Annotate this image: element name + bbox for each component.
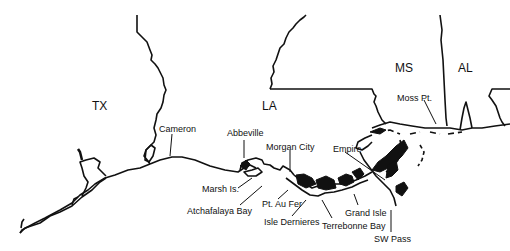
tx-la-border	[137, 15, 166, 164]
place-label-grand-isle: Grand Isle	[345, 208, 387, 218]
state-label-al: AL	[458, 61, 473, 75]
ms-al-border	[440, 15, 447, 126]
mississippi-river-border	[270, 15, 306, 89]
place-label-abbeville: Abbeville	[227, 128, 264, 138]
state-label-ms: MS	[395, 61, 413, 75]
place-label-moss-pt: Moss Pt.	[397, 93, 432, 103]
place-label-cameron: Cameron	[159, 124, 196, 134]
gulf-coast-map	[0, 0, 510, 251]
place-label-isle-dernieres: Isle Dernieres	[264, 217, 320, 227]
place-label-pt-au-fer: Pt. Au Fer	[262, 199, 302, 209]
la-ms-border	[270, 89, 386, 124]
state-label-la: LA	[262, 99, 277, 113]
place-label-terrebonne-bay: Terrebonne Bay	[322, 221, 386, 231]
place-label-empire: Empire	[333, 144, 362, 154]
place-label-marsh-is: Marsh Is.	[202, 184, 239, 194]
state-label-tx: TX	[92, 99, 107, 113]
place-label-sw-pass: SW Pass	[374, 234, 411, 244]
place-label-morgan-city: Morgan City	[266, 142, 315, 152]
al-fl-border	[489, 89, 510, 126]
ms-al-coastline	[372, 122, 510, 130]
place-label-atchafalaya-bay: Atchafalaya Bay	[187, 206, 252, 216]
